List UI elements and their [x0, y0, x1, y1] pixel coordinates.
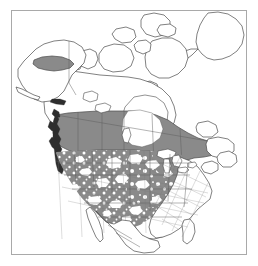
north-america-map	[12, 11, 246, 254]
baffin-island	[145, 38, 188, 78]
arctic-island-b	[134, 40, 151, 54]
florida-peninsula	[182, 219, 195, 244]
arctic-island-a	[112, 27, 136, 43]
newfoundland	[217, 151, 237, 167]
nova-scotia	[201, 161, 218, 174]
victoria-island	[99, 44, 134, 72]
map-canvas	[12, 11, 246, 254]
labrador-coast	[196, 121, 218, 137]
greenland-outline	[196, 12, 244, 60]
arctic-island-c	[157, 24, 176, 37]
map-frame	[11, 10, 247, 255]
map-figure	[0, 0, 258, 266]
